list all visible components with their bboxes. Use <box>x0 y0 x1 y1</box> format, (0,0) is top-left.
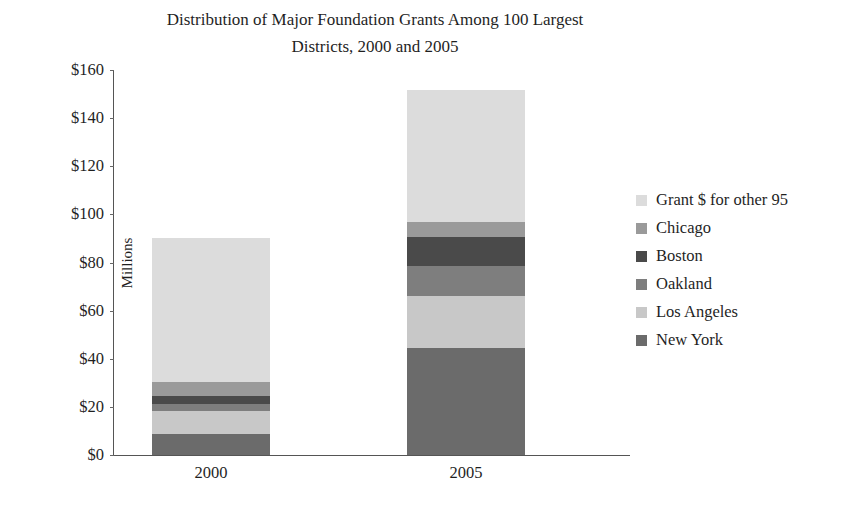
bar-segment[interactable] <box>152 238 270 382</box>
legend-item[interactable]: Chicago <box>636 214 788 242</box>
y-axis-tick-label: $60 <box>79 301 104 321</box>
bar-segment[interactable] <box>407 237 525 266</box>
bar-segment[interactable] <box>152 404 270 411</box>
y-axis-tick-label: $40 <box>79 349 104 369</box>
legend-item[interactable]: Los Angeles <box>636 298 788 326</box>
bar-segment[interactable] <box>407 296 525 348</box>
y-axis-tick-label: $160 <box>71 60 104 80</box>
chart-title-line-2: Districts, 2000 and 2005 <box>95 33 655 60</box>
legend-item[interactable]: New York <box>636 326 788 354</box>
bar-segment[interactable] <box>407 266 525 296</box>
bar-2000[interactable] <box>152 238 270 456</box>
chart-title: Distribution of Major Foundation Grants … <box>95 6 655 60</box>
y-axis-tick <box>110 359 114 360</box>
legend-label: Boston <box>656 246 703 266</box>
chart-legend: Grant $ for other 95ChicagoBostonOakland… <box>636 186 788 354</box>
chart-title-line-1: Distribution of Major Foundation Grants … <box>95 6 655 33</box>
y-axis-tick-label: $20 <box>79 397 104 417</box>
legend-item[interactable]: Oakland <box>636 270 788 298</box>
x-axis-label-2005: 2005 <box>386 463 546 483</box>
y-axis-tick <box>110 455 114 456</box>
legend-item[interactable]: Grant $ for other 95 <box>636 186 788 214</box>
y-axis-tick <box>110 311 114 312</box>
y-axis-tick <box>110 166 114 167</box>
y-axis-tick <box>110 263 114 264</box>
y-axis-tick-label: $120 <box>71 156 104 176</box>
stacked-bar-chart: Distribution of Major Foundation Grants … <box>0 0 850 512</box>
legend-label: Los Angeles <box>656 302 738 322</box>
y-axis-tick <box>110 70 114 71</box>
bar-segment[interactable] <box>152 396 270 404</box>
bar-segment[interactable] <box>407 348 525 455</box>
legend-label: Grant $ for other 95 <box>656 190 788 210</box>
legend-item[interactable]: Boston <box>636 242 788 270</box>
legend-swatch-icon <box>636 223 647 234</box>
legend-swatch-icon <box>636 307 647 318</box>
bar-2005[interactable] <box>407 90 525 455</box>
y-axis-tick-label: $80 <box>79 253 104 273</box>
legend-label: New York <box>656 330 723 350</box>
bar-segment[interactable] <box>152 382 270 396</box>
legend-swatch-icon <box>636 195 647 206</box>
bar-segment[interactable] <box>152 411 270 434</box>
y-axis-tick <box>110 407 114 408</box>
x-axis-label-2000: 2000 <box>131 463 291 483</box>
y-axis-title: Millions <box>119 237 136 288</box>
y-axis-tick <box>110 118 114 119</box>
bar-segment[interactable] <box>407 90 525 222</box>
y-axis-tick-label: $0 <box>88 445 105 465</box>
x-axis-line <box>113 455 630 456</box>
bar-segment[interactable] <box>152 434 270 455</box>
y-axis-tick-label: $140 <box>71 108 104 128</box>
legend-swatch-icon <box>636 279 647 290</box>
y-axis-tick <box>110 214 114 215</box>
legend-label: Chicago <box>656 218 711 238</box>
bar-segment[interactable] <box>407 222 525 237</box>
legend-swatch-icon <box>636 251 647 262</box>
legend-label: Oakland <box>656 274 712 294</box>
y-axis-tick-label: $100 <box>71 204 104 224</box>
plot-area: $160$140$120$100$80$60$40$20$0 Millions … <box>113 70 630 455</box>
legend-swatch-icon <box>636 335 647 346</box>
